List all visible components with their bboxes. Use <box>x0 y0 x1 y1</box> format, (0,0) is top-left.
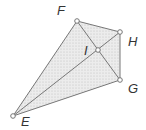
label-e: E <box>21 114 30 129</box>
label-f: F <box>57 3 66 18</box>
point-g-icon <box>118 78 123 83</box>
geometry-diagram: EFHIG <box>0 0 146 130</box>
point-i-icon <box>96 48 101 53</box>
shaded-quadrilateral <box>13 21 120 116</box>
point-h-icon <box>118 30 123 35</box>
point-e-icon <box>11 114 16 119</box>
label-i: I <box>84 43 88 58</box>
label-g: G <box>128 81 138 96</box>
label-h: H <box>128 34 138 49</box>
point-f-icon <box>75 19 80 24</box>
